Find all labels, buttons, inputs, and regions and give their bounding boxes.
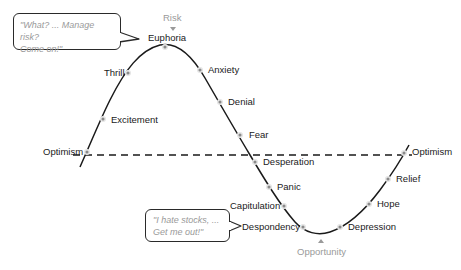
top-speech-bubble: "What? ... Manage risk? Come on!" [13, 13, 121, 50]
stage-label-thrill: Thrill [104, 68, 125, 78]
top-bubble-tail [119, 32, 139, 42]
stage-label-optimism-left: Optimism [43, 147, 83, 157]
stage-label-euphoria: Euphoria [148, 33, 186, 43]
stage-label-optimism-right: Optimism [412, 147, 452, 157]
top-bubble-line2: Come on!" [20, 43, 114, 55]
bottom-speech-bubble: "I hate stocks, ... Get me out!" [145, 209, 230, 242]
tail-join-top [118, 33, 121, 41]
opportunity-marker-icon [318, 239, 324, 243]
stage-label-capitulation: Capitulation [230, 201, 280, 211]
stage-label-relief: Relief [396, 174, 420, 184]
stage-label-excitement: Excitement [111, 115, 158, 125]
stage-label-fear: Fear [249, 130, 269, 140]
risk-marker-icon [170, 27, 176, 31]
bottom-bubble-line1: "I hate stocks, ... [153, 214, 222, 226]
tail-join-bottom [227, 222, 231, 230]
stage-label-denial: Denial [228, 97, 255, 107]
stage-label-desperation: Desperation [263, 157, 314, 167]
bottom-bubble-line2: Get me out!" [153, 226, 222, 238]
stage-label-depression: Depression [348, 222, 396, 232]
stage-label-anxiety: Anxiety [208, 65, 239, 75]
stage-label-panic: Panic [277, 182, 301, 192]
risk-label: Risk [163, 13, 181, 23]
stage-label-despondency: Despondency [242, 222, 300, 232]
opportunity-label: Opportunity [297, 247, 346, 257]
stage-label-hope: Hope [377, 199, 400, 209]
top-bubble-line1: "What? ... Manage risk? [20, 19, 114, 43]
